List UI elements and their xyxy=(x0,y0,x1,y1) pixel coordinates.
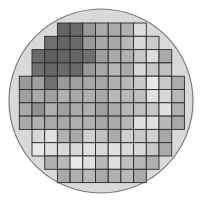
die-cell xyxy=(96,143,109,156)
die-cell xyxy=(96,156,109,169)
die-cell xyxy=(159,90,172,103)
die-cell xyxy=(45,103,58,116)
die-cell xyxy=(57,50,70,63)
die-cell xyxy=(121,23,134,36)
die-cell xyxy=(146,36,159,49)
die-cell xyxy=(70,63,83,76)
die-cell xyxy=(134,103,147,116)
die-cell xyxy=(134,156,147,169)
die-cell xyxy=(159,76,172,89)
die-cell xyxy=(96,103,109,116)
die-cell xyxy=(108,50,121,63)
die-cell xyxy=(108,63,121,76)
die-cell xyxy=(108,23,121,36)
die-cell xyxy=(96,76,109,89)
die-cell xyxy=(70,90,83,103)
die-cell xyxy=(70,103,83,116)
die-cell xyxy=(57,103,70,116)
die-cell xyxy=(32,50,45,63)
die-cell xyxy=(134,169,147,182)
die-cell xyxy=(19,76,32,89)
die-cell xyxy=(121,90,134,103)
die-cell xyxy=(45,156,58,169)
die-cell xyxy=(134,36,147,49)
die-cell xyxy=(96,116,109,129)
die-cell xyxy=(57,129,70,142)
die-cell xyxy=(121,129,134,142)
die-cell xyxy=(32,103,45,116)
die-cell xyxy=(70,129,83,142)
die-cell xyxy=(70,23,83,36)
die-cell xyxy=(134,50,147,63)
die-cell xyxy=(70,76,83,89)
die-cell xyxy=(57,76,70,89)
die-cell xyxy=(96,50,109,63)
die-cell xyxy=(172,103,185,116)
die-cell xyxy=(57,156,70,169)
die-cell xyxy=(146,143,159,156)
die-cell xyxy=(96,129,109,142)
die-cell xyxy=(45,76,58,89)
die-cell xyxy=(83,156,96,169)
die-cell xyxy=(45,143,58,156)
die-cell xyxy=(121,156,134,169)
die-cell xyxy=(146,90,159,103)
die-cell xyxy=(96,169,109,182)
die-cell xyxy=(108,36,121,49)
die-cell xyxy=(45,63,58,76)
die-cell xyxy=(121,76,134,89)
die-cell xyxy=(121,169,134,182)
die-cell xyxy=(45,90,58,103)
die-cell xyxy=(83,76,96,89)
die-cell xyxy=(57,36,70,49)
die-cell xyxy=(134,90,147,103)
die-cell xyxy=(32,129,45,142)
die-cell xyxy=(121,116,134,129)
die-cell xyxy=(134,23,147,36)
die-cell xyxy=(159,63,172,76)
die-cell xyxy=(57,90,70,103)
die-cell xyxy=(83,116,96,129)
die-cell xyxy=(19,90,32,103)
die-cell xyxy=(70,143,83,156)
die-cell xyxy=(83,103,96,116)
die-cell xyxy=(57,169,70,182)
die-cell xyxy=(159,143,172,156)
die-cell xyxy=(96,23,109,36)
die-cell xyxy=(83,143,96,156)
die-cell xyxy=(146,50,159,63)
die-cell xyxy=(108,129,121,142)
die-cell xyxy=(57,63,70,76)
die-cell xyxy=(57,143,70,156)
die-cell xyxy=(172,76,185,89)
die-cell xyxy=(159,50,172,63)
die-cell xyxy=(159,103,172,116)
die-cell xyxy=(70,156,83,169)
die-cell xyxy=(96,63,109,76)
die-cell xyxy=(32,116,45,129)
die-cell xyxy=(146,156,159,169)
die-cell xyxy=(121,50,134,63)
die-cell xyxy=(146,76,159,89)
die-cell xyxy=(45,116,58,129)
die-cell xyxy=(57,116,70,129)
die-cell xyxy=(121,143,134,156)
die-cell xyxy=(32,143,45,156)
die-cell xyxy=(134,129,147,142)
wafer-map xyxy=(0,0,202,200)
die-cell xyxy=(32,90,45,103)
die-cell xyxy=(19,103,32,116)
die-cell xyxy=(45,50,58,63)
die-cell xyxy=(57,23,70,36)
die-cell xyxy=(83,90,96,103)
die-cell xyxy=(70,50,83,63)
die-cell xyxy=(108,156,121,169)
die-cell xyxy=(159,129,172,142)
die-cell xyxy=(70,169,83,182)
die-cell xyxy=(121,63,134,76)
die-cell xyxy=(146,63,159,76)
die-cell xyxy=(70,116,83,129)
die-cell xyxy=(121,103,134,116)
die-cell xyxy=(83,63,96,76)
die-cell xyxy=(121,36,134,49)
